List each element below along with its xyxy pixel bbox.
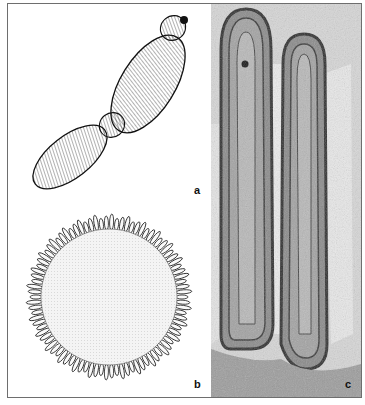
cross-section-illustration <box>8 201 211 397</box>
figure-frame: a b <box>7 3 362 398</box>
segmented-body-illustration <box>8 4 211 201</box>
electron-micrograph <box>211 4 361 397</box>
panel-label-b: b <box>194 378 201 390</box>
panel-label-c: c <box>345 378 351 390</box>
panel-b: b <box>8 201 211 397</box>
panel-c: c <box>211 4 361 397</box>
panel-a: a <box>8 4 211 201</box>
panel-label-a: a <box>194 184 200 196</box>
